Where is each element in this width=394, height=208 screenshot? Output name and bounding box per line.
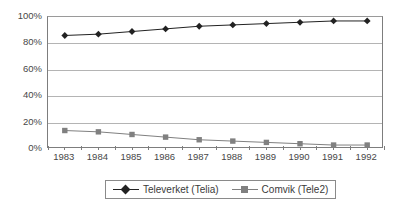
data-point-marker bbox=[96, 129, 101, 134]
x-axis-minor-tick bbox=[283, 146, 284, 150]
y-axis-tick-label: 0% bbox=[28, 143, 42, 153]
x-axis-tick-mark bbox=[199, 147, 200, 150]
x-axis-minor-tick bbox=[216, 146, 217, 150]
x-axis-tick-label: 1985 bbox=[120, 152, 141, 162]
data-point-marker bbox=[297, 141, 302, 146]
data-point-marker bbox=[61, 32, 68, 39]
x-axis-tick-label: 1989 bbox=[255, 152, 276, 162]
data-point-marker bbox=[330, 18, 337, 25]
square-marker-icon bbox=[232, 185, 258, 195]
x-axis-tick-mark bbox=[64, 147, 65, 150]
legend-marker bbox=[121, 184, 131, 194]
x-axis-tick-mark bbox=[367, 147, 368, 150]
data-point-marker bbox=[229, 22, 236, 29]
diamond-marker-icon bbox=[113, 185, 139, 195]
y-axis-tick-label: 80% bbox=[23, 37, 42, 47]
x-axis-tick-mark bbox=[333, 147, 334, 150]
series-line bbox=[65, 131, 367, 146]
x-axis-tick-mark bbox=[132, 147, 133, 150]
data-point-marker bbox=[129, 28, 136, 35]
y-axis-tick-label: 20% bbox=[23, 117, 42, 127]
legend-entry-2: Comvik (Tele2) bbox=[232, 184, 329, 195]
x-axis-tick-mark bbox=[165, 147, 166, 150]
legend-label: Televerket (Telia) bbox=[143, 184, 219, 195]
x-axis-tick-label: 1992 bbox=[356, 152, 377, 162]
x-axis-minor-tick bbox=[316, 146, 317, 150]
x-axis-tick-label: 1983 bbox=[53, 152, 74, 162]
x-axis-minor-tick bbox=[81, 146, 82, 150]
x-axis-tick-mark bbox=[300, 147, 301, 150]
x-axis-tick-mark bbox=[232, 147, 233, 150]
y-axis-tick-label: 40% bbox=[23, 90, 42, 100]
plot-area bbox=[47, 16, 383, 148]
y-axis-tick-label: 100% bbox=[18, 11, 42, 21]
x-axis-tick-mark bbox=[98, 147, 99, 150]
series-1 bbox=[61, 18, 370, 39]
legend-marker bbox=[241, 186, 248, 193]
data-point-marker bbox=[163, 134, 168, 139]
gridline bbox=[48, 43, 382, 44]
x-axis-tick-label: 1984 bbox=[87, 152, 108, 162]
chart-legend: Televerket (Telia)Comvik (Tele2) bbox=[105, 180, 336, 199]
gridline bbox=[48, 96, 382, 97]
x-axis-minor-tick bbox=[48, 146, 49, 150]
data-point-marker bbox=[95, 31, 102, 38]
data-point-marker bbox=[162, 25, 169, 32]
data-point-marker bbox=[264, 140, 269, 145]
x-axis-tick-label: 1986 bbox=[154, 152, 175, 162]
y-axis: 0%20%40%60%80%100% bbox=[0, 16, 47, 148]
x-axis-minor-tick bbox=[384, 146, 385, 150]
series-2 bbox=[62, 128, 370, 148]
gridline bbox=[48, 123, 382, 124]
gridline bbox=[48, 70, 382, 71]
data-point-marker bbox=[196, 23, 203, 30]
x-axis-minor-tick bbox=[249, 146, 250, 150]
x-axis-tick-label: 1990 bbox=[288, 152, 309, 162]
data-point-marker bbox=[197, 137, 202, 142]
legend-label: Comvik (Tele2) bbox=[262, 184, 329, 195]
data-point-marker bbox=[297, 19, 304, 26]
data-point-marker bbox=[129, 132, 134, 137]
data-point-marker bbox=[263, 20, 270, 27]
series-layer bbox=[48, 17, 384, 149]
line-chart: 0%20%40%60%80%100% 198319841985198619871… bbox=[0, 0, 394, 208]
data-point-marker bbox=[230, 138, 235, 143]
legend-entry-1: Televerket (Telia) bbox=[113, 184, 219, 195]
x-axis-tick-label: 1987 bbox=[188, 152, 209, 162]
x-axis-tick-label: 1991 bbox=[322, 152, 343, 162]
x-axis-minor-tick bbox=[350, 146, 351, 150]
x-axis-minor-tick bbox=[115, 146, 116, 150]
data-point-marker bbox=[364, 18, 371, 25]
x-axis-tick-mark bbox=[266, 147, 267, 150]
x-axis-minor-tick bbox=[182, 146, 183, 150]
data-point-marker bbox=[62, 128, 67, 133]
y-axis-tick-label: 60% bbox=[23, 64, 42, 74]
series-line bbox=[65, 21, 367, 36]
x-axis-minor-tick bbox=[148, 146, 149, 150]
x-axis-tick-label: 1988 bbox=[221, 152, 242, 162]
